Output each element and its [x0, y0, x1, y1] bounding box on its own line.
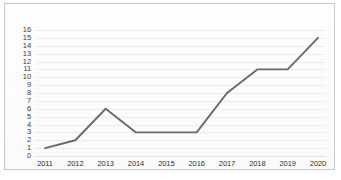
x-axis-tick-label: 2012 [67, 159, 83, 168]
y-axis-tick-label: 4 [27, 121, 31, 129]
line-series-svg [35, 30, 326, 156]
x-axis-tick-label: 2020 [310, 159, 326, 168]
x-axis-tick-label: 2013 [98, 159, 114, 168]
y-axis-tick-label: 15 [23, 34, 31, 42]
line-series-path [45, 38, 318, 148]
plot-area [35, 30, 326, 156]
y-axis-tick-label: 13 [23, 50, 31, 58]
x-axis-tick-label: 2015 [158, 159, 174, 168]
y-axis-tick-label: 11 [23, 66, 31, 74]
y-axis-tick-labels: 012345678910111213141516 [5, 4, 35, 180]
gridline [35, 156, 326, 157]
x-axis-tick-label: 2019 [280, 159, 296, 168]
y-axis-tick-label: 3 [27, 129, 31, 137]
y-axis-tick-label: 12 [23, 58, 31, 66]
y-axis-tick-label: 0 [27, 152, 31, 160]
y-axis-tick-label: 9 [27, 81, 31, 89]
y-axis-tick-label: 7 [27, 97, 31, 105]
x-axis-tick-label: 2014 [128, 159, 144, 168]
y-axis-tick-label: 8 [27, 89, 31, 97]
chart-frame: 012345678910111213141516 201120122013201… [4, 3, 335, 170]
x-axis-tick-label: 2011 [37, 159, 53, 168]
y-axis-tick-label: 16 [23, 26, 31, 34]
x-axis-tick-labels: 2011201220132014201520162017201820192020 [35, 159, 326, 173]
y-axis-tick-label: 5 [27, 113, 31, 121]
y-axis-tick-label: 1 [27, 144, 31, 152]
y-axis-tick-label: 14 [23, 42, 31, 50]
y-axis-tick-label: 6 [27, 105, 31, 113]
y-axis-tick-label: 2 [27, 137, 31, 145]
x-axis-tick-label: 2017 [219, 159, 235, 168]
x-axis-tick-label: 2018 [249, 159, 265, 168]
y-axis-tick-label: 10 [23, 74, 31, 82]
x-axis-tick-label: 2016 [189, 159, 205, 168]
